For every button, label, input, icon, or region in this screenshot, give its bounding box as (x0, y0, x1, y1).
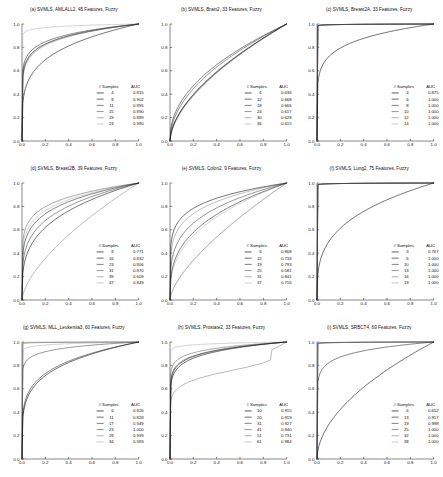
y-tick-label: 0.4 (13, 92, 20, 97)
legend-auc-value: 0.875 (428, 90, 439, 95)
legend-auc-value: 0.793 (281, 262, 292, 267)
legend-samples-value: 24 (257, 109, 262, 114)
y-tick-label: 0.6 (309, 386, 316, 391)
legend: # SamplesAUC30.76761.000101.000131.00016… (392, 243, 440, 286)
legend-row: 60.826 (97, 408, 145, 413)
roc-curve (170, 342, 287, 459)
y-tick-label: 0.4 (309, 410, 316, 415)
roc-curve (22, 342, 139, 459)
roc-curve (317, 342, 434, 459)
x-tick-label: 0.8 (112, 301, 119, 306)
roc-curve (317, 24, 434, 141)
legend-row: 410.940 (244, 427, 292, 432)
roc-curve (22, 24, 139, 141)
legend-samples-value: 19 (109, 115, 114, 120)
x-tick-label: 0.6 (89, 301, 96, 306)
y-tick-label: 1.0 (309, 340, 316, 345)
x-tick-label: 0.4 (66, 460, 73, 465)
legend-samples-value: 34 (109, 439, 114, 444)
legend-row: 40.875 (392, 90, 440, 95)
legend-row: 370.716 (244, 280, 292, 285)
legend-auc-value: 0.940 (281, 427, 292, 432)
legend-auc-value: 0.870 (133, 268, 144, 273)
legend-samples-value: 51 (257, 433, 262, 438)
roc-panel-d: (d) SVMLS, Breast2B, 39 Features, Fuzzy0… (0, 159, 148, 318)
x-tick-label: 1.0 (283, 301, 290, 306)
curves (317, 342, 434, 459)
roc-curve (317, 183, 434, 300)
legend-auc-value: 1.000 (428, 427, 439, 432)
y-tick-label: 0.6 (309, 68, 316, 73)
legend-auc-value: 0.731 (281, 433, 292, 438)
legend-row: 61.000 (392, 256, 440, 261)
tick-labels: 0.00.20.40.60.81.00.00.20.40.60.81.0 (309, 22, 438, 148)
x-tick-label: 0.8 (260, 301, 267, 306)
roc-panel-i: (i) SVMLS, SRBCT4, 69 Features, Fuzzy0.0… (295, 318, 443, 477)
y-tick-label: 0.8 (309, 363, 316, 368)
legend-auc-value: 0.841 (281, 274, 292, 279)
legend-samples-value: 4 (111, 90, 114, 95)
legend-row: 610.984 (244, 439, 292, 444)
y-tick-label: 0.0 (161, 457, 168, 462)
plot-area: 0.00.20.40.60.81.00.00.20.40.60.81.0# Sa… (148, 159, 296, 318)
y-tick-label: 0.0 (309, 457, 316, 462)
curves (22, 24, 139, 141)
legend-auc-value: 0.617 (281, 109, 292, 114)
roc-curve (317, 24, 434, 141)
axes (22, 183, 139, 300)
legend-row: 470.849 (97, 280, 145, 285)
legend-auc-value: 0.889 (133, 115, 144, 120)
legend: # SamplesAUC100.915200.919310.927410.940… (244, 402, 292, 445)
plot-area: 0.00.20.40.60.81.00.00.20.40.60.81.0# Sa… (0, 159, 148, 318)
legend-header-samples: # Samples (99, 84, 119, 89)
x-tick-label: 0.4 (213, 301, 220, 306)
legend-auc-value: 0.832 (133, 256, 144, 261)
curves (170, 183, 287, 300)
legend-row: 200.919 (244, 415, 292, 420)
x-tick-label: 0.4 (213, 142, 220, 147)
legend-header-auc: AUC (426, 243, 435, 248)
roc-curve (170, 342, 287, 459)
x-tick-label: 0.4 (361, 460, 368, 465)
axes (317, 24, 434, 141)
y-tick-label: 0.2 (13, 115, 20, 120)
legend-header-auc: AUC (426, 84, 435, 89)
roc-curve (22, 342, 139, 459)
x-tick-label: 0.4 (213, 460, 220, 465)
curves (22, 183, 139, 300)
legend-samples-value: 6 (111, 408, 114, 413)
legend-samples-value: 32 (404, 433, 409, 438)
y-tick-label: 0.8 (13, 204, 20, 209)
y-tick-label: 0.2 (309, 433, 316, 438)
roc-panel-a: (a) SVMLS, AMLALL2, 45 Features, Fuzzy0.… (0, 0, 148, 159)
x-tick-label: 0.6 (384, 301, 391, 306)
legend-auc-value: 1.000 (428, 97, 439, 102)
y-tick-label: 0.2 (161, 115, 168, 120)
legend-samples-value: 6 (407, 408, 410, 413)
x-tick-label: 0.2 (338, 460, 345, 465)
x-tick-label: 0.2 (42, 301, 49, 306)
y-tick-label: 0.6 (309, 227, 316, 232)
legend-samples-value: 11 (109, 415, 114, 420)
legend-row: 61.000 (392, 97, 440, 102)
legend-samples-value: 10 (404, 262, 409, 267)
legend-samples-value: 11 (109, 103, 114, 108)
roc-curve (170, 24, 287, 141)
legend-samples-value: 25 (404, 427, 409, 432)
y-tick-label: 0.6 (13, 68, 20, 73)
tick-labels: 0.00.20.40.60.81.00.00.20.40.60.81.0 (161, 181, 290, 307)
x-tick-label: 0.2 (190, 460, 197, 465)
legend-row: 230.980 (97, 121, 145, 126)
roc-panel-e: (e) SVMLS, Colon2, 9 Features, Fuzzy0.00… (148, 159, 296, 318)
legend-row: 340.983 (97, 439, 145, 444)
x-tick-label: 0.0 (314, 460, 321, 465)
legend-auc-value: 0.609 (133, 274, 144, 279)
legend-row: 180.666 (244, 103, 292, 108)
legend-row: 60.652 (392, 408, 440, 413)
roc-curve (170, 24, 287, 141)
y-tick-label: 0.0 (161, 139, 168, 144)
legend-auc-value: 0.890 (133, 109, 144, 114)
legend-auc-value: 0.767 (428, 249, 439, 254)
roc-curve (317, 24, 434, 141)
axes (22, 342, 139, 459)
